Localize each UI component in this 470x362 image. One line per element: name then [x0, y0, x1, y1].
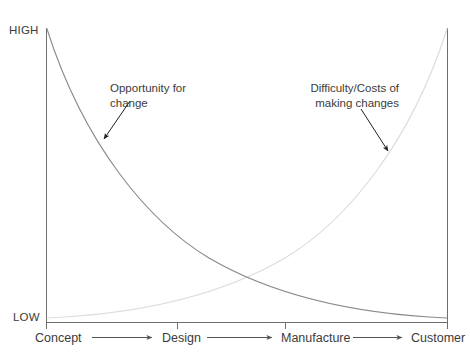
- axis-lines: [46, 28, 448, 323]
- curve-difficulty-costs: [47, 29, 447, 318]
- curve-opportunity-for-change: [47, 29, 447, 318]
- annotation-arrow-difficulty: [361, 109, 388, 151]
- annotation-difficulty-costs: Difficulty/Costs of making changes: [281, 81, 399, 111]
- x-axis-label-design: Design: [162, 331, 201, 345]
- x-axis-ticks: [47, 322, 448, 329]
- x-axis-label-manufacture: Manufacture: [281, 331, 350, 345]
- x-axis-label-concept: Concept: [35, 331, 82, 345]
- y-axis-low-label: LOW: [13, 311, 40, 323]
- annotation-opportunity-for-change: Opportunity for change: [110, 81, 225, 111]
- chart-canvas: [0, 0, 470, 362]
- x-axis-label-customer: Customer: [411, 331, 465, 345]
- chart-container: HIGH LOW Concept Design Manufacture Cust…: [0, 0, 470, 362]
- y-axis-high-label: HIGH: [9, 24, 39, 36]
